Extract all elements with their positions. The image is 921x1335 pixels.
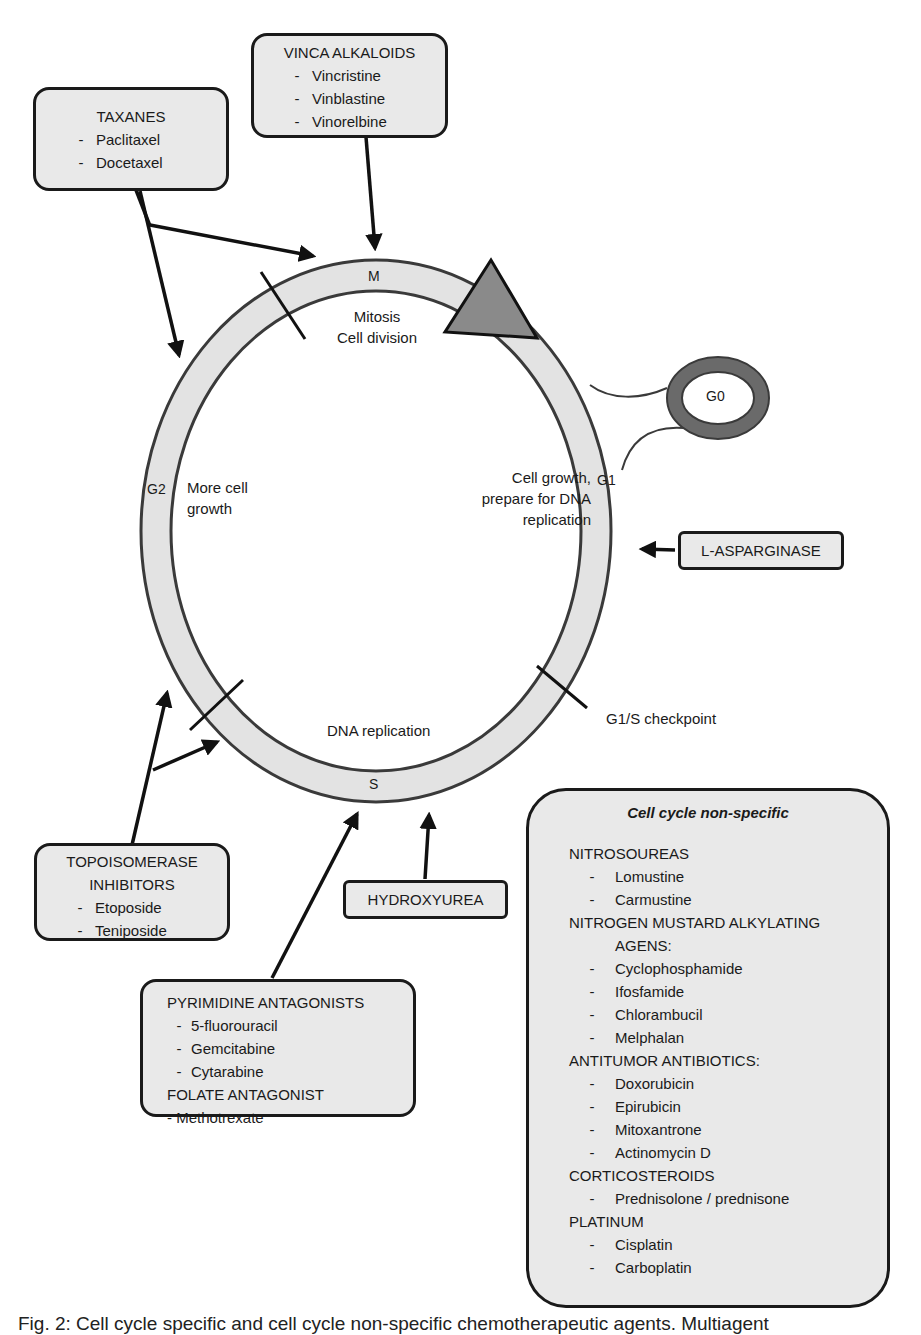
group-heading: NITROGEN MUSTARD ALKYLATING	[569, 911, 887, 934]
drug-item: -Teniposide	[65, 919, 227, 942]
arrow-asparginase-to-g1	[642, 549, 675, 550]
arrow-topo-to-s	[153, 742, 217, 770]
list-dash: -	[569, 1095, 615, 1118]
antimetabolites-box: PYRIMIDINE ANTAGONISTS -5-fluorouracil -…	[140, 979, 416, 1117]
list-dash: -	[167, 1060, 191, 1083]
drug-item: -Epirubicin	[569, 1095, 887, 1118]
list-dash: -	[282, 110, 312, 133]
drug-cytarabine: Cytarabine	[191, 1060, 264, 1083]
drug-item: -Ifosfamide	[569, 980, 887, 1003]
g2-description: More cell growth	[187, 477, 248, 519]
vinca-title: VINCA ALKALOIDS	[254, 41, 445, 64]
drug-item: -Actinomycin D	[569, 1141, 887, 1164]
drug-item: -Carboplatin	[569, 1256, 887, 1279]
drug-item: -Lomustine	[569, 865, 887, 888]
drug-item: -Vincristine	[282, 64, 445, 87]
list-dash: -	[569, 1141, 615, 1164]
drug-vincristine: Vincristine	[312, 64, 381, 87]
drug-prednisolone: Prednisolone / prednisone	[615, 1187, 789, 1210]
mitosis-line2: Cell division	[322, 327, 432, 348]
drug-carboplatin: Carboplatin	[615, 1256, 692, 1279]
hydroxyurea-box: HYDROXYUREA	[343, 880, 508, 919]
drug-item: -Carmustine	[569, 888, 887, 911]
drug-etoposide: Etoposide	[95, 896, 162, 919]
drug-item: -Cisplatin	[569, 1233, 887, 1256]
phase-label-g1: G1	[597, 472, 616, 488]
topoisomerase-inhibitors-box: TOPOISOMERASE INHIBITORS -Etoposide -Ten…	[34, 843, 230, 941]
group-nitrosoureas: NITROSOUREAS -Lomustine -Carmustine	[529, 842, 887, 911]
drug-cisplatin: Cisplatin	[615, 1233, 673, 1256]
arrow-taxanes-to-m	[150, 225, 313, 256]
list-dash: -	[65, 919, 95, 942]
list-dash: -	[569, 1003, 615, 1026]
drug-item: -Etoposide	[65, 896, 227, 919]
group-platinum: PLATINUM -Cisplatin -Carboplatin	[529, 1210, 887, 1279]
g2-line1: More cell	[187, 477, 248, 498]
drug-melphalan: Melphalan	[615, 1026, 684, 1049]
drug-vinblastine: Vinblastine	[312, 87, 385, 110]
list-dash: -	[66, 128, 96, 151]
g2-line2: growth	[187, 498, 248, 519]
non-specific-box: Cell cycle non-specific NITROSOUREAS -Lo…	[526, 788, 890, 1308]
phase-label-g2: G2	[147, 481, 166, 497]
topo-title-line1: TOPOISOMERASE	[37, 850, 227, 873]
drug-item: -Gemcitabine	[167, 1037, 413, 1060]
vinca-alkaloids-box: VINCA ALKALOIDS -Vincristine -Vinblastin…	[251, 33, 448, 138]
list-dash: -	[66, 151, 96, 174]
group-nitrogen-mustards: NITROGEN MUSTARD ALKYLATING AGENS: -Cycl…	[529, 911, 887, 1049]
list-dash: -	[569, 957, 615, 980]
drug-item: -Melphalan	[569, 1026, 887, 1049]
drug-item: -5-fluorouracil	[167, 1014, 413, 1037]
drug-item: -Mitoxantrone	[569, 1118, 887, 1141]
drug-lomustine: Lomustine	[615, 865, 684, 888]
taxanes-box: TAXANES -Paclitaxel -Docetaxel	[33, 87, 229, 191]
drug-gemcitabine: Gemcitabine	[191, 1037, 275, 1060]
drug-item: -Prednisolone / prednisone	[569, 1187, 887, 1210]
drug-cyclophosphamide: Cyclophosphamide	[615, 957, 743, 980]
non-specific-title: Cell cycle non-specific	[529, 801, 887, 824]
phase-label-s: S	[369, 776, 378, 792]
mitosis-line1: Mitosis	[322, 306, 432, 327]
drug-item: -Cyclophosphamide	[569, 957, 887, 980]
drug-item: -Vinorelbine	[282, 110, 445, 133]
list-dash: -	[569, 1187, 615, 1210]
drug-teniposide: Teniposide	[95, 919, 167, 942]
g1-description: Cell growth, prepare for DNA replication	[448, 467, 591, 530]
list-dash: -	[282, 64, 312, 87]
group-heading-cont: AGENS:	[569, 934, 887, 957]
list-dash: -	[167, 1014, 191, 1037]
list-dash: -	[569, 980, 615, 1003]
drug-item: -Chlorambucil	[569, 1003, 887, 1026]
phase-label-g0: G0	[706, 388, 725, 404]
drug-doxorubicin: Doxorubicin	[615, 1072, 694, 1095]
drug-item: -Paclitaxel	[66, 128, 226, 151]
asparginase-title: L-ASPARGINASE	[701, 542, 821, 559]
list-dash: -	[167, 1037, 191, 1060]
group-heading: CORTICOSTEROIDS	[569, 1164, 887, 1187]
phase-label-m: M	[368, 268, 380, 284]
hydroxyurea-title: HYDROXYUREA	[368, 891, 484, 908]
arrow-hydroxyurea-to-s	[425, 815, 429, 879]
group-antitumor-antibiotics: ANTITUMOR ANTIBIOTICS: -Doxorubicin -Epi…	[529, 1049, 887, 1164]
drug-methotrexate: - Methotrexate	[167, 1106, 413, 1129]
drug-actinomycin-d: Actinomycin D	[615, 1141, 711, 1164]
group-corticosteroids: CORTICOSTEROIDS -Prednisolone / predniso…	[529, 1164, 887, 1210]
list-dash: -	[569, 865, 615, 888]
list-dash: -	[569, 1026, 615, 1049]
list-dash: -	[569, 1256, 615, 1279]
list-dash: -	[282, 87, 312, 110]
list-dash: -	[65, 896, 95, 919]
drug-epirubicin: Epirubicin	[615, 1095, 681, 1118]
pyrimidine-title: PYRIMIDINE ANTAGONISTS	[167, 991, 413, 1014]
g1-line3: replication	[448, 509, 591, 530]
drug-item: -Doxorubicin	[569, 1072, 887, 1095]
drug-item: -Vinblastine	[282, 87, 445, 110]
arrow-topo-to-g2	[132, 693, 167, 845]
drug-5-fluorouracil: 5-fluorouracil	[191, 1014, 278, 1037]
drug-chlorambucil: Chlorambucil	[615, 1003, 703, 1026]
g1s-checkpoint-label: G1/S checkpoint	[606, 708, 716, 729]
group-heading: NITROSOUREAS	[569, 842, 887, 865]
folate-title: FOLATE ANTAGONIST	[167, 1083, 413, 1106]
taxanes-stem	[136, 190, 150, 226]
drug-item: -Docetaxel	[66, 151, 226, 174]
